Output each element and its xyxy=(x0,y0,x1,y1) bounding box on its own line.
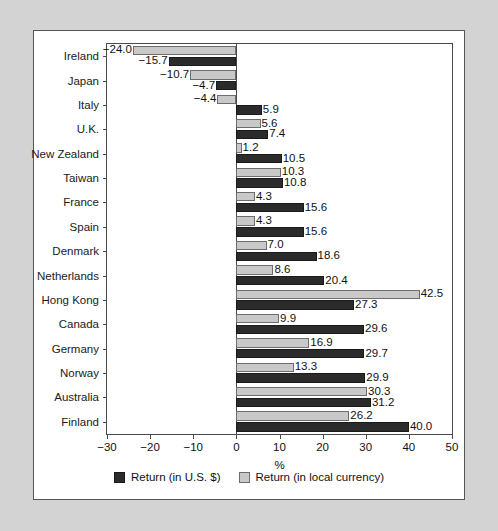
bar-value-label: 7.4 xyxy=(269,129,285,141)
bar-usd: 31.2 xyxy=(236,398,371,407)
y-axis-tick xyxy=(103,422,107,423)
bar-value-label: 42.5 xyxy=(421,288,443,300)
category-label: Canada xyxy=(59,318,99,330)
y-axis-tick xyxy=(103,397,107,398)
bar-value-label: −24.0 xyxy=(103,45,132,57)
x-axis-tick-label: 20 xyxy=(316,441,329,453)
category-label: Finland xyxy=(61,416,99,428)
category-label: Germany xyxy=(52,343,99,355)
bar-usd: 18.6 xyxy=(236,252,316,261)
bar-local: 30.3 xyxy=(236,387,367,396)
bar-usd: 29.9 xyxy=(236,373,365,382)
y-axis-tick xyxy=(103,129,107,130)
bar-usd: 15.6 xyxy=(236,227,303,236)
x-axis-tick-label: 10 xyxy=(273,441,286,453)
bar-value-label: 4.3 xyxy=(256,191,272,203)
bar-usd: −4.7 xyxy=(216,81,236,90)
chart-figure-panel: Ireland−24.0−15.7Japan−10.7−4.7Italy−4.4… xyxy=(33,30,465,500)
bar-local: 4.3 xyxy=(236,192,255,201)
bar-value-label: 9.9 xyxy=(280,313,296,325)
legend-item: Return (in U.S. $) xyxy=(114,471,220,483)
category-label: Taiwan xyxy=(63,172,99,184)
category-label: Italy xyxy=(78,99,99,111)
bar-usd: 20.4 xyxy=(236,276,324,285)
bar-local: 42.5 xyxy=(236,290,419,299)
category-label: Denmark xyxy=(52,245,99,257)
bar-usd: 10.5 xyxy=(236,154,281,163)
y-axis-tick xyxy=(103,56,107,57)
y-axis-tick xyxy=(103,178,107,179)
bar-local: 8.6 xyxy=(236,265,273,274)
category-label: Japan xyxy=(68,75,99,87)
bar-row: Netherlands8.620.4 xyxy=(107,263,452,287)
y-axis-tick xyxy=(103,324,107,325)
x-axis-tick xyxy=(366,434,367,439)
bar-row: Italy−4.45.9 xyxy=(107,93,452,117)
y-axis-tick xyxy=(103,105,107,106)
bar-local: 7.0 xyxy=(236,241,266,250)
bar-value-label: 31.2 xyxy=(372,397,394,409)
legend-label: Return (in local currency) xyxy=(256,471,384,483)
bar-value-label: 15.6 xyxy=(305,202,327,214)
bar-row: Taiwan10.310.8 xyxy=(107,166,452,190)
bar-usd: 29.7 xyxy=(236,349,364,358)
x-axis-tick-label: 50 xyxy=(446,441,459,453)
x-axis-tick-label: −20 xyxy=(140,441,160,453)
bar-value-label: −4.7 xyxy=(192,80,215,92)
bar-value-label: 18.6 xyxy=(318,251,340,263)
legend-item: Return (in local currency) xyxy=(239,471,384,483)
category-label: France xyxy=(63,196,99,208)
x-axis-tick-label: 0 xyxy=(233,441,239,453)
bar-row: Denmark7.018.6 xyxy=(107,239,452,263)
legend-swatch-dark xyxy=(114,472,125,483)
category-label: Australia xyxy=(54,391,99,403)
bar-usd: −15.7 xyxy=(169,57,237,66)
bar-value-label: 10.5 xyxy=(283,153,305,165)
x-axis-tick xyxy=(409,434,410,439)
category-label: Spain xyxy=(70,221,99,233)
bar-local: 5.6 xyxy=(236,119,260,128)
bar-usd: 15.6 xyxy=(236,203,303,212)
bar-value-label: 26.2 xyxy=(350,410,372,422)
x-axis-tick xyxy=(107,434,108,439)
category-label: New Zealand xyxy=(31,148,99,160)
bar-local: 4.3 xyxy=(236,216,255,225)
x-axis-tick xyxy=(452,434,453,439)
x-axis-tick-label: 30 xyxy=(359,441,372,453)
category-label: Ireland xyxy=(64,50,99,62)
x-axis-tick xyxy=(150,434,151,439)
y-axis-tick xyxy=(103,81,107,82)
bar-value-label: 16.9 xyxy=(310,337,332,349)
category-label: U.K. xyxy=(77,123,99,135)
bar-local: 13.3 xyxy=(236,363,293,372)
bar-value-label: −15.7 xyxy=(139,56,168,68)
bar-value-label: 5.9 xyxy=(263,104,279,116)
bar-row: France4.315.6 xyxy=(107,190,452,214)
x-axis-tick-label: 40 xyxy=(402,441,415,453)
bar-usd: 5.9 xyxy=(236,105,261,114)
bar-value-label: 7.0 xyxy=(268,240,284,252)
y-axis-tick xyxy=(103,276,107,277)
bar-usd: 40.0 xyxy=(236,422,409,431)
bar-row: U.K.5.67.4 xyxy=(107,117,452,141)
x-axis-tick xyxy=(280,434,281,439)
bar-row: Spain4.315.6 xyxy=(107,215,452,239)
bar-row: Japan−10.7−4.7 xyxy=(107,68,452,92)
plot-area: Ireland−24.0−15.7Japan−10.7−4.7Italy−4.4… xyxy=(106,43,453,435)
x-axis-tick xyxy=(193,434,194,439)
category-label: Hong Kong xyxy=(41,294,99,306)
bar-value-label: 20.4 xyxy=(325,275,347,287)
bar-row: Australia30.331.2 xyxy=(107,385,452,409)
bar-value-label: 8.6 xyxy=(274,264,290,276)
y-axis-tick xyxy=(103,349,107,350)
x-axis-tick xyxy=(236,434,237,439)
bar-value-label: 13.3 xyxy=(295,362,317,374)
bar-value-label: 40.0 xyxy=(410,421,432,433)
bar-value-label: −4.4 xyxy=(194,93,217,105)
bar-usd: 7.4 xyxy=(236,130,268,139)
x-axis-tick-label: −10 xyxy=(183,441,203,453)
bar-row: Finland26.240.0 xyxy=(107,410,452,434)
bar-value-label: 1.2 xyxy=(243,142,259,154)
y-axis-tick xyxy=(103,251,107,252)
bar-value-label: 15.6 xyxy=(305,226,327,238)
